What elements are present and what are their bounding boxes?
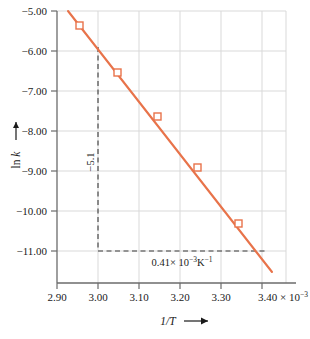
y-tick-label-3: −8.00 [22, 125, 48, 137]
y-tick-label-2: −7.00 [22, 85, 48, 97]
run-value: 0.41 [152, 257, 170, 268]
x-tick-label-2: 3.10 [129, 291, 149, 303]
data-point-4 [235, 220, 242, 227]
x-tick-label-3: 3.20 [170, 291, 190, 303]
data-point-1 [114, 69, 121, 76]
y-tick-label-5: −10.00 [16, 205, 47, 217]
data-point-3 [194, 164, 201, 171]
x-exponent-base: 3.40 × 10 [258, 291, 300, 303]
x-exponent-sup: −3 [300, 290, 308, 299]
x-axis-title: 1/T [160, 315, 177, 327]
data-point-0 [76, 22, 83, 29]
y-axis-title-k: k [10, 151, 22, 157]
run-unit-exponent: −1 [205, 255, 213, 264]
plot-svg: −5.00 −6.00 −7.00 −8.00 −9.00 −10.00 −11… [0, 0, 310, 339]
y-axis-title-ln: ln [10, 157, 22, 169]
y-tick-label-0: −5.00 [22, 5, 48, 17]
x-tick-label-0: 2.90 [47, 291, 67, 303]
y-tick-label-4: −9.00 [22, 165, 48, 177]
arrhenius-plot-figure: −5.00 −6.00 −7.00 −8.00 −9.00 −10.00 −11… [0, 0, 310, 339]
data-point-2 [154, 113, 161, 120]
x-tick-label-1: 3.00 [88, 291, 108, 303]
x-tick-label-4: 3.30 [211, 291, 231, 303]
run-annotation-label: 0.41× 10−3K−1 [152, 255, 213, 268]
rise-annotation-label: −5.1 [85, 152, 96, 171]
y-tick-label-1: −6.00 [22, 45, 48, 57]
y-axis-title: ln k [10, 151, 22, 169]
run-times: × 10 [170, 257, 189, 268]
y-tick-label-6: −11.00 [16, 245, 47, 257]
